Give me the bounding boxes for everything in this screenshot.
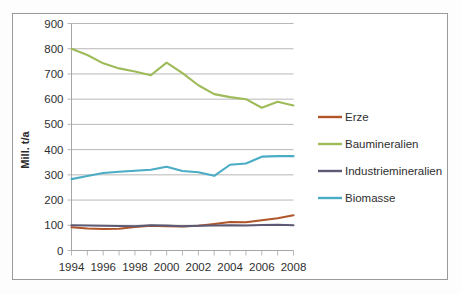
x-tick-label: 1994 — [59, 261, 85, 273]
gridlines-group — [68, 24, 294, 251]
legend-label-industriemineralien: Industriemineralien — [345, 165, 442, 177]
legend-label-biomasse: Biomasse — [345, 192, 396, 204]
y-tick-label: 0 — [57, 245, 63, 257]
x-tick-label: 2002 — [186, 261, 212, 273]
x-tick-label: 2006 — [249, 261, 275, 273]
legend-label-baumineralien: Baumineralien — [345, 138, 419, 150]
y-axis-title-text: Mill. t/a — [19, 130, 31, 168]
x-axis — [72, 251, 294, 256]
x-tick-label: 2004 — [217, 261, 243, 273]
chart-container: 0100200300400500600700800900 19941996199… — [0, 0, 461, 294]
x-tick-label: 1996 — [90, 261, 116, 273]
y-axis-title: Mill. t/a — [19, 130, 31, 168]
y-tick-label: 600 — [44, 93, 63, 105]
y-tick-label: 500 — [44, 118, 63, 130]
legend: ErzeBaumineralienIndustriemineralienBiom… — [318, 111, 442, 204]
x-tick-label: 2008 — [281, 261, 307, 273]
series-line-biomasse — [72, 156, 294, 179]
legend-label-erze: Erze — [345, 111, 369, 123]
y-tick-label: 400 — [44, 144, 63, 156]
x-tick-label: 2000 — [154, 261, 180, 273]
y-tick-label: 700 — [44, 68, 63, 80]
y-tick-label: 900 — [44, 18, 63, 30]
x-tick-labels: 19941996199820002002200420062008 — [59, 261, 307, 273]
x-tick-label: 1998 — [122, 261, 148, 273]
y-tick-label: 300 — [44, 169, 63, 181]
line-chart: 0100200300400500600700800900 19941996199… — [0, 0, 461, 294]
y-tick-label: 800 — [44, 43, 63, 55]
y-tick-label: 100 — [44, 219, 63, 231]
y-tick-label: 200 — [44, 194, 63, 206]
series-lines-group — [72, 49, 294, 229]
y-tick-labels: 0100200300400500600700800900 — [44, 18, 63, 257]
